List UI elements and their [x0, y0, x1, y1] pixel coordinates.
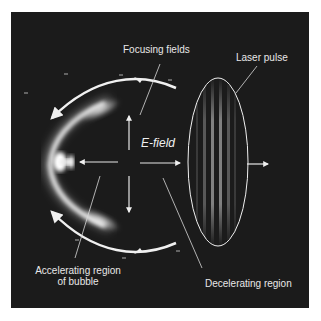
label-accelerating-line2: of bubble	[28, 276, 128, 287]
electron-bunch	[53, 152, 74, 172]
label-accelerating-line1: Accelerating region	[28, 265, 128, 276]
bottom-flow-arrow	[52, 212, 176, 252]
label-focusing-fields: Focusing fields	[123, 44, 190, 55]
label-accelerating-region: Accelerating region of bubble	[28, 265, 128, 287]
label-decelerating-region: Decelerating region	[205, 278, 292, 289]
diagram: Focusing fields Laser pulse E-field Acce…	[0, 0, 321, 321]
laser-pulse	[188, 78, 248, 246]
label-e-field: E-field	[141, 138, 175, 149]
top-flow-arrow	[52, 79, 176, 118]
e-field-arrows	[80, 116, 268, 212]
label-laser-pulse: Laser pulse	[236, 52, 288, 63]
